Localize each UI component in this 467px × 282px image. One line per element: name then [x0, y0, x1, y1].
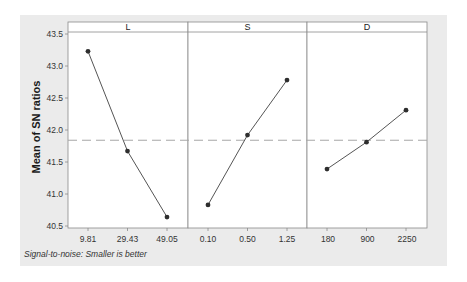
data-point-l — [86, 49, 91, 54]
x-tick-label: 9.81 — [80, 234, 97, 244]
y-tick-label: 42.0 — [46, 125, 63, 135]
data-point-d — [325, 167, 330, 172]
panel-s-area — [188, 22, 307, 228]
data-point-s — [285, 78, 290, 83]
y-tick-label: 43.5 — [46, 29, 63, 39]
y-tick-label: 42.5 — [46, 93, 63, 103]
chart-footnote: Signal-to-noise: Smaller is better — [24, 249, 148, 259]
y-tick-label: 41.0 — [46, 189, 63, 199]
data-point-s — [206, 202, 211, 207]
y-tick-label: 43.0 — [46, 61, 63, 71]
x-tick-label: 49.05 — [156, 234, 178, 244]
data-point-d — [364, 140, 369, 145]
y-axis-title: Mean of SN ratios — [30, 81, 42, 174]
x-tick-label: 0.10 — [200, 234, 217, 244]
x-tick-label: 900 — [360, 234, 374, 244]
x-tick-label: 1.25 — [279, 234, 296, 244]
panels — [68, 22, 427, 228]
data-point-l — [125, 149, 130, 154]
panel-d-area — [307, 22, 427, 228]
x-tick-label: 29.43 — [117, 234, 139, 244]
panel-l-header: L — [125, 22, 130, 32]
data-point-d — [404, 108, 409, 113]
data-point-s — [245, 133, 250, 138]
panel-d-header: D — [364, 22, 371, 32]
x-tick-label: 2250 — [398, 234, 417, 244]
x-axis: 9.81 29.43 49.05 0.10 0.50 1.25 180 900 … — [80, 234, 417, 244]
main-effects-plot: L S D 40.5 41.0 41.5 42.0 42.5 43.0 43.5… — [0, 0, 467, 282]
x-tick-label: 180 — [321, 234, 335, 244]
x-tick-label: 0.50 — [239, 234, 256, 244]
panel-l-area — [68, 22, 188, 228]
y-tick-label: 40.5 — [46, 221, 63, 231]
y-tick-label: 41.5 — [46, 157, 63, 167]
data-point-l — [165, 215, 170, 220]
panel-s-header: S — [244, 22, 250, 32]
